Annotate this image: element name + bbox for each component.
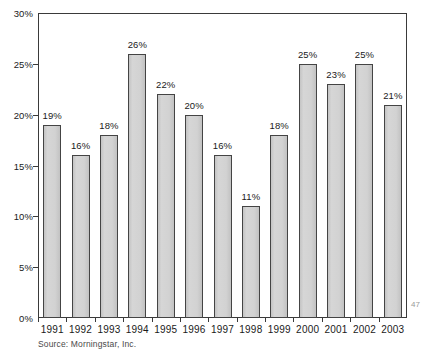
bar-1998 <box>242 206 260 318</box>
x-tick-label-1994: 1994 <box>126 324 149 335</box>
x-tick-mark <box>180 318 181 322</box>
source-note: Source: Morningstar, Inc. <box>38 339 136 349</box>
bar-1999 <box>270 135 288 318</box>
bars-layer: 19%16%18%26%22%20%16%11%18%25%23%25%21% <box>38 13 407 318</box>
bar-1991 <box>43 125 61 318</box>
bar-1993 <box>100 135 118 318</box>
bar-1994 <box>128 54 146 318</box>
bar-value-label: 21% <box>383 90 402 101</box>
y-tick-label: 30% <box>14 8 33 19</box>
bar-value-label: 25% <box>298 49 317 60</box>
bar-value-label: 16% <box>71 140 90 151</box>
x-tick-label-1995: 1995 <box>154 324 177 335</box>
x-tick-mark <box>379 318 380 322</box>
bar-value-label: 18% <box>99 120 118 131</box>
bar-1996 <box>185 115 203 318</box>
bar-value-label: 25% <box>355 49 374 60</box>
x-tick-label-1998: 1998 <box>239 324 262 335</box>
x-tick-label-1991: 1991 <box>41 324 64 335</box>
y-tick-label: 5% <box>19 262 33 273</box>
x-tick-label-1993: 1993 <box>97 324 120 335</box>
x-tick-mark <box>38 318 39 322</box>
x-tick-mark <box>237 318 238 322</box>
page-marker: 47 <box>411 300 420 309</box>
bar-value-label: 18% <box>270 120 289 131</box>
bar-value-label: 23% <box>326 69 345 80</box>
y-tick-label: 10% <box>14 211 33 222</box>
x-tick-mark <box>293 318 294 322</box>
y-tick-label: 20% <box>14 109 33 120</box>
bar-chart: 0%5%10%15%20%25%30% 19%16%18%26%22%20%16… <box>0 0 425 358</box>
y-tick-label: 15% <box>14 160 33 171</box>
x-tick-label-2001: 2001 <box>325 324 348 335</box>
x-tick-mark <box>123 318 124 322</box>
bar-1995 <box>157 94 175 318</box>
x-tick-mark <box>95 318 96 322</box>
bar-value-label: 11% <box>242 191 261 202</box>
bar-2001 <box>327 84 345 318</box>
bar-1997 <box>214 155 232 318</box>
bar-value-label: 22% <box>156 79 175 90</box>
x-tick-mark <box>66 318 67 322</box>
bar-value-label: 26% <box>128 39 147 50</box>
bar-2002 <box>355 64 373 318</box>
x-tick-mark <box>152 318 153 322</box>
x-tick-mark <box>208 318 209 322</box>
x-tick-mark <box>322 318 323 322</box>
x-tick-label-2003: 2003 <box>381 324 404 335</box>
x-tick-label-1992: 1992 <box>69 324 92 335</box>
bar-value-label: 20% <box>184 100 203 111</box>
x-tick-label-1997: 1997 <box>211 324 234 335</box>
x-tick-label-1999: 1999 <box>268 324 291 335</box>
bar-value-label: 16% <box>213 140 232 151</box>
bar-2000 <box>299 64 317 318</box>
bar-2003 <box>384 105 402 319</box>
bar-value-label: 19% <box>43 110 62 121</box>
bar-1992 <box>72 155 90 318</box>
y-tick-label: 0% <box>19 313 33 324</box>
x-tick-mark <box>350 318 351 322</box>
x-tick-label-2002: 2002 <box>353 324 376 335</box>
x-tick-mark <box>265 318 266 322</box>
x-tick-label-2000: 2000 <box>296 324 319 335</box>
y-tick-label: 25% <box>14 58 33 69</box>
y-axis: 0%5%10%15%20%25%30% <box>0 13 38 318</box>
x-tick-label-1996: 1996 <box>183 324 206 335</box>
